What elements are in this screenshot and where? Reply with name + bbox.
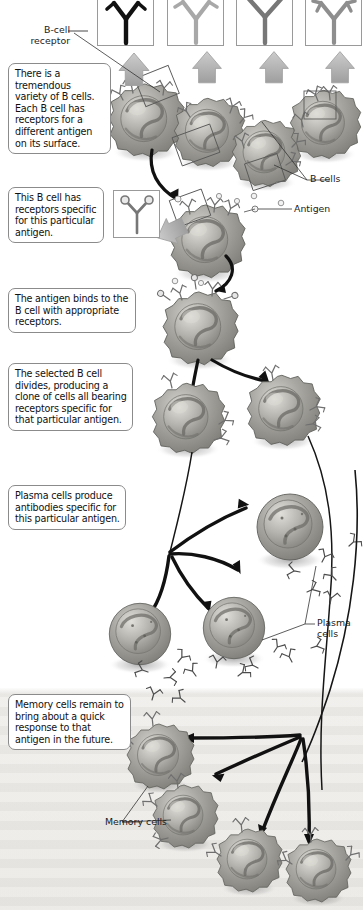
- antibody-specimen-box-4[interactable]: [305, 0, 362, 46]
- callout-variety[interactable]: There is a tremendous variety of B cells…: [8, 63, 111, 154]
- label-memory-cells: Memory cells: [87, 816, 167, 827]
- clone-cells-group: [152, 365, 326, 459]
- b-cell-row-group: [68, 31, 361, 192]
- antibody-specimen-box-3[interactable]: [236, 0, 293, 46]
- label-plasma-cells: Plasma cells: [317, 617, 351, 639]
- diagram-canvas: There is a tremendous variety of B cells…: [0, 0, 363, 910]
- bind-arrow: [216, 256, 232, 293]
- antibody-double-hook-icon: [306, 0, 363, 47]
- callout-binds[interactable]: The antigen binds to the B cell with app…: [8, 288, 136, 333]
- bound-b-cell-group: [156, 274, 238, 370]
- label-b-cells: B cells: [310, 173, 340, 184]
- callout-divides[interactable]: The selected B cell divides, producing a…: [8, 363, 133, 431]
- plasma-cells-group: [108, 494, 324, 674]
- antibody-light-hooked-icon: [168, 0, 225, 47]
- antibody-specimen-box-selected[interactable]: [113, 190, 160, 238]
- label-bcell-receptor: B-cell receptor: [26, 24, 70, 46]
- callout-plasma[interactable]: Plasma cells produce antibodies specific…: [8, 485, 126, 530]
- antibody-selected-receptor-icon: [114, 191, 161, 239]
- antibody-specimen-box-2[interactable]: [167, 0, 224, 46]
- division-arrows: [186, 360, 272, 396]
- selected-b-cell-group: [152, 189, 292, 286]
- label-antigen: Antigen: [294, 203, 330, 214]
- plasma-cells-leader: [262, 566, 316, 640]
- callout-specific[interactable]: This B cell has receptors specific for t…: [8, 187, 104, 243]
- callout-memory[interactable]: Memory cells remain to bring about a qui…: [8, 694, 131, 750]
- antibody-dark-hooked-icon: [98, 0, 155, 47]
- differentiation-fan: [146, 496, 249, 618]
- antibody-specimen-box-1[interactable]: [97, 0, 154, 46]
- antibody-plain-y-icon: [237, 0, 294, 47]
